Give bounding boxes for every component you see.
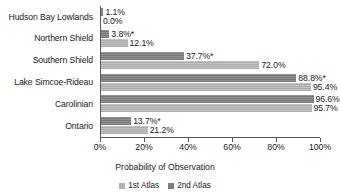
bar-1st-atlas — [101, 83, 311, 91]
bar-2nd-atlas — [101, 95, 314, 103]
bar-group: 3.8%* 12.1% — [101, 28, 320, 50]
bar-2nd-atlas — [101, 30, 109, 38]
bar-wrap-1st-atlas: 95.7% — [101, 104, 320, 112]
bar-wrap-1st-atlas: 0.0% — [101, 17, 320, 25]
bar-wrap-2nd-atlas: 1.1% — [101, 8, 320, 16]
x-axis-tick-label: 60% — [223, 143, 240, 152]
x-axis-title: Probability of Observation — [0, 163, 330, 172]
x-axis-ticks — [100, 138, 320, 142]
bar-wrap-2nd-atlas: 88.8%* — [101, 74, 320, 82]
bar-wrap-1st-atlas: 72.0% — [101, 61, 320, 69]
bar-2nd-atlas — [101, 52, 184, 60]
bar-wrap-1st-atlas: 95.4% — [101, 83, 320, 91]
legend-label: 1st Atlas — [128, 182, 159, 190]
bar-value-1st-atlas: 72.0% — [259, 60, 285, 69]
x-axis-tick-label: 20% — [135, 143, 152, 152]
category-label: Lake Simcoe-Rideau — [0, 71, 96, 93]
bar-1st-atlas — [101, 126, 148, 134]
legend: 1st Atlas 2nd Atlas — [0, 182, 330, 190]
x-axis-tick-label: 0% — [94, 143, 107, 152]
bar-group: 96.6% 95.7% — [101, 93, 320, 115]
bar-value-1st-atlas: 21.2% — [148, 126, 174, 135]
bar-2nd-atlas — [101, 74, 296, 82]
bar-wrap-2nd-atlas: 13.7%* — [101, 117, 320, 125]
x-axis-tick-labels: 0%20%40%60%80%100% — [100, 143, 320, 155]
legend-label: 2nd Atlas — [177, 182, 211, 190]
bar-1st-atlas — [101, 39, 128, 47]
bar-wrap-1st-atlas: 21.2% — [101, 126, 320, 134]
legend-item-2nd-atlas[interactable]: 2nd Atlas — [168, 182, 211, 190]
bar-value-2nd-atlas: 37.7%* — [184, 51, 213, 60]
category-label: Carolinian — [0, 93, 96, 115]
category-label: Northern Shield — [0, 28, 96, 50]
bar-value-1st-atlas: 95.4% — [311, 82, 337, 91]
bar-1st-atlas — [101, 104, 312, 112]
category-axis-labels: Hudson Bay Lowlands Northern Shield Sout… — [0, 6, 96, 137]
bar-wrap-2nd-atlas: 96.6% — [101, 95, 320, 103]
bar-group: 37.7%* 72.0% — [101, 50, 320, 72]
bar-group: 13.7%* 21.2% — [101, 115, 320, 137]
bar-value-1st-atlas: 12.1% — [128, 38, 154, 47]
bar-value-1st-atlas: 95.7% — [312, 104, 338, 113]
bar-group: 1.1% 0.0% — [101, 6, 320, 28]
x-axis-tick-label: 100% — [309, 143, 331, 152]
legend-swatch-icon — [168, 183, 174, 189]
bar-2nd-atlas — [101, 117, 131, 125]
bar-group: 88.8%* 95.4% — [101, 72, 320, 94]
legend-swatch-icon — [119, 183, 125, 189]
x-axis-tick-label: 80% — [267, 143, 284, 152]
category-label: Ontario — [0, 115, 96, 137]
bar-1st-atlas — [101, 61, 259, 69]
legend-item-1st-atlas[interactable]: 1st Atlas — [119, 182, 159, 190]
plot-area: 1.1% 0.0% 3.8%* 12.1% 37.7%* — [100, 6, 320, 137]
bar-value-1st-atlas: 0.0% — [101, 17, 122, 26]
category-label: Hudson Bay Lowlands — [0, 6, 96, 28]
bar-wrap-1st-atlas: 12.1% — [101, 39, 320, 47]
category-label: Southern Shield — [0, 50, 96, 72]
bar-wrap-2nd-atlas: 37.7%* — [101, 52, 320, 60]
x-axis-tick-label: 40% — [179, 143, 196, 152]
